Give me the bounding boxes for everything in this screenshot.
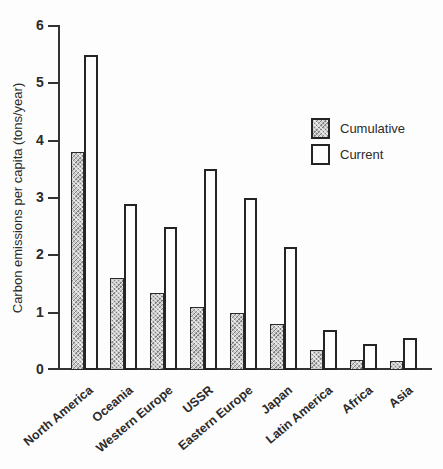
bar-current-western-europe — [164, 227, 178, 370]
y-axis-line — [58, 25, 60, 370]
bar-current-ussr — [204, 169, 218, 370]
bar-current-eastern-europe — [244, 198, 258, 370]
bar-current-japan — [284, 247, 298, 370]
bar-chart: Carbon emissions per capita (tons/year) … — [0, 0, 443, 469]
bar-current-oceania — [124, 204, 138, 370]
y-tick-label: 1 — [14, 304, 44, 320]
bar-cumulative-asia — [390, 361, 404, 370]
y-tick-mark — [48, 82, 58, 84]
legend-item-cumulative: Cumulative — [311, 117, 405, 140]
bar-cumulative-ussr — [190, 307, 204, 370]
y-tick-label: 5 — [14, 74, 44, 90]
x-category-label-asia: Asia — [386, 383, 415, 411]
y-tick-label: 0 — [14, 361, 44, 377]
y-tick-mark — [48, 197, 58, 199]
bar-cumulative-western-europe — [150, 293, 164, 370]
bar-current-asia — [403, 338, 417, 370]
y-tick-label: 6 — [14, 17, 44, 33]
y-tick-label: 2 — [14, 246, 44, 262]
legend-label-cumulative: Cumulative — [340, 122, 405, 135]
bar-cumulative-japan — [270, 324, 284, 370]
x-category-label-ussr: USSR — [180, 383, 216, 416]
bar-current-latin-america — [323, 330, 337, 370]
y-tick-mark — [48, 140, 58, 142]
y-tick-label: 4 — [14, 132, 44, 148]
bar-current-africa — [363, 344, 377, 370]
current-swatch-icon — [311, 144, 330, 165]
bar-cumulative-africa — [350, 360, 364, 370]
bar-current-north-america — [84, 55, 98, 370]
y-tick-mark — [48, 254, 58, 256]
y-tick-mark — [48, 25, 58, 27]
y-tick-label: 3 — [14, 189, 44, 205]
x-category-label-africa: Africa — [339, 383, 375, 417]
cumulative-swatch-icon — [311, 118, 330, 139]
bar-cumulative-oceania — [110, 278, 124, 370]
y-tick-mark — [48, 312, 58, 314]
x-category-label-north-america: North America — [21, 383, 96, 449]
legend-label-current: Current — [340, 148, 383, 161]
bar-cumulative-latin-america — [310, 350, 324, 370]
legend: Cumulative Current — [311, 117, 405, 169]
bar-cumulative-eastern-europe — [230, 313, 244, 370]
legend-item-current: Current — [311, 143, 405, 166]
bar-cumulative-north-america — [71, 152, 85, 370]
